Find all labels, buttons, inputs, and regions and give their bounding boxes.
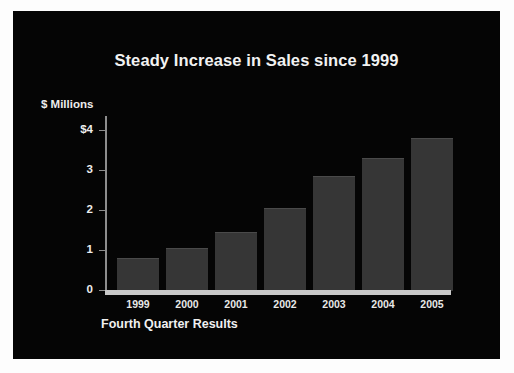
y-tick-mark [99, 250, 106, 251]
slide-page: Steady Increase in Sales since 1999 $ Mi… [0, 0, 514, 373]
y-tick-label: 2 [53, 204, 93, 216]
y-tick-mark [99, 210, 106, 211]
bar-2000 [166, 248, 208, 291]
x-tick-label-2002: 2002 [261, 299, 310, 310]
y-tick-mark [99, 130, 106, 131]
y-tick-mark [99, 170, 106, 171]
plot-area: $43210 1999200020012002200320042005 [13, 11, 500, 359]
y-tick-label: 0 [53, 284, 93, 296]
bar-2004 [362, 158, 404, 291]
y-tick-label: 3 [53, 164, 93, 176]
bar-2001 [215, 232, 257, 291]
x-tick-label-2004: 2004 [359, 299, 408, 310]
y-axis-line [105, 116, 107, 291]
y-tick-label: $4 [53, 124, 93, 136]
x-tick-label-2005: 2005 [408, 299, 457, 310]
bar-2003 [313, 176, 355, 291]
slide-canvas: Steady Increase in Sales since 1999 $ Mi… [13, 11, 500, 359]
bar-2005 [411, 138, 453, 291]
y-tick-label: 1 [53, 244, 93, 256]
x-tick-label-2001: 2001 [212, 299, 261, 310]
bar-1999 [117, 258, 159, 291]
x-tick-label-2003: 2003 [310, 299, 359, 310]
x-tick-label-1999: 1999 [114, 299, 163, 310]
x-tick-label-2000: 2000 [163, 299, 212, 310]
x-axis-label: Fourth Quarter Results [101, 317, 238, 331]
bar-2002 [264, 208, 306, 291]
x-axis-baseline [105, 290, 451, 295]
